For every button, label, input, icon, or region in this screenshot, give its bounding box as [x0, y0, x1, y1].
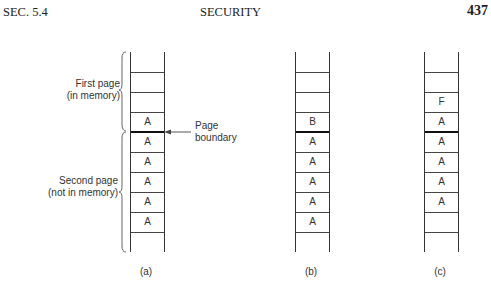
memory-cell: A	[296, 192, 329, 212]
memory-cell	[425, 212, 458, 232]
memory-cell: F	[425, 92, 458, 112]
memory-cell	[296, 72, 329, 92]
first-page-brace-icon	[118, 50, 130, 256]
memory-cell	[131, 72, 164, 92]
memory-cell: A	[425, 152, 458, 172]
memory-cell: A	[296, 152, 329, 172]
second-page-label-line2: (not in memory)	[0, 187, 118, 199]
memory-cell: A	[131, 112, 164, 132]
page-boundary-line2: boundary	[195, 132, 237, 144]
section-number: SEC. 5.4	[3, 5, 48, 20]
memory-cell: A	[425, 192, 458, 212]
memory-cell	[425, 72, 458, 92]
second-page-label: Second page (not in memory)	[0, 175, 118, 199]
memory-cell	[425, 232, 458, 252]
memory-cell: A	[296, 172, 329, 192]
memory-cell	[296, 92, 329, 112]
first-page-label-line2: (in memory)	[30, 90, 120, 102]
running-title: SECURITY	[200, 5, 261, 20]
memory-cell: B	[296, 112, 329, 132]
page-number: 437	[467, 3, 488, 19]
memory-cell: A	[131, 212, 164, 232]
first-page-label: First page (in memory)	[30, 78, 120, 102]
memory-cell	[131, 92, 164, 112]
panel-caption-c: (c)	[420, 266, 460, 277]
panel-caption-a: (a)	[126, 266, 166, 277]
memory-ladder-a: AAAAAA	[130, 52, 165, 252]
memory-cell: A	[131, 172, 164, 192]
memory-cell: A	[425, 132, 458, 152]
memory-cell: A	[425, 172, 458, 192]
memory-cell	[131, 232, 164, 252]
page-boundary-label: Page boundary	[195, 120, 237, 144]
memory-ladder-c: FAAAAA	[424, 52, 459, 252]
memory-cell: A	[425, 112, 458, 132]
memory-cell: A	[131, 152, 164, 172]
memory-cell: A	[131, 132, 164, 152]
memory-cell	[296, 232, 329, 252]
memory-cell: A	[296, 212, 329, 232]
second-page-label-line1: Second page	[0, 175, 118, 187]
memory-ladder-b: BAAAAA	[295, 52, 330, 252]
panel-caption-b: (b)	[291, 266, 331, 277]
page-boundary-line1: Page	[195, 120, 237, 132]
first-page-label-line1: First page	[30, 78, 120, 90]
memory-cell: A	[296, 132, 329, 152]
memory-cell: A	[131, 192, 164, 212]
page-boundary-arrow-icon	[164, 128, 192, 136]
